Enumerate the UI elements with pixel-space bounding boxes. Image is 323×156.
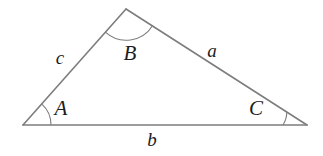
angle-label-A: A: [55, 98, 68, 119]
triangle-drawing: [0, 0, 323, 156]
angle-label-C: C: [249, 98, 263, 119]
side-label-c: c: [56, 48, 64, 67]
angle-arc-B: [105, 26, 152, 41]
triangle-figure: c a b A B C: [0, 0, 323, 156]
angle-arc-A: [42, 104, 51, 125]
angle-label-B: B: [124, 43, 137, 64]
side-label-a: a: [207, 41, 217, 60]
angle-arc-C: [283, 112, 287, 125]
edge-a-segment: [126, 9, 307, 125]
side-label-b: b: [147, 130, 157, 149]
edge-c-segment: [23, 9, 126, 125]
